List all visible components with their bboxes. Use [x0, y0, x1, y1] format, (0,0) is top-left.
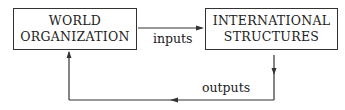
- right-box-line1: INTERNATIONAL: [213, 13, 331, 29]
- arrowhead-up-icon: [67, 51, 72, 58]
- left-box-line1: WORLD: [49, 13, 101, 29]
- world-organization-box: WORLD ORGANIZATION: [13, 8, 137, 50]
- inputs-label: inputs: [153, 31, 193, 46]
- arrowhead-left-icon: [170, 98, 178, 103]
- arrowhead-right-icon: [196, 26, 204, 31]
- arrowhead-down-icon: [272, 68, 277, 75]
- international-structures-box: INTERNATIONAL STRUCTURES: [205, 8, 338, 50]
- outputs-label: outputs: [202, 80, 250, 95]
- right-box-line2: STRUCTURES: [224, 29, 319, 45]
- left-box-line2: ORGANIZATION: [20, 29, 130, 45]
